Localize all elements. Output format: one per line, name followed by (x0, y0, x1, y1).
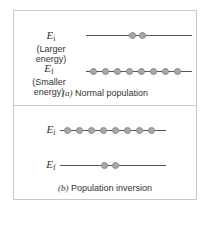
panel-divider (13, 105, 197, 106)
atom (136, 127, 143, 134)
atom (126, 68, 133, 75)
atom (124, 127, 131, 134)
atom (100, 127, 107, 134)
atom (102, 68, 109, 75)
atom (112, 127, 119, 134)
energy-level-ei-a (86, 35, 192, 36)
atom (64, 127, 71, 134)
caption-a: (a) Normal population (13, 88, 197, 98)
energy-level-ef-b (60, 165, 166, 166)
atom (114, 68, 121, 75)
energy-level-ef-a (86, 71, 192, 72)
caption-b: (b) Population inversion (13, 183, 197, 193)
atom (88, 127, 95, 134)
atom (148, 127, 155, 134)
atom (90, 68, 97, 75)
atom (76, 127, 83, 134)
energy-level-ei-b (60, 130, 166, 131)
label-ei-a: Ei (Larger energy) (20, 30, 82, 64)
atom (162, 68, 169, 75)
label-ef-b: Ef (43, 159, 59, 173)
label-ei-b: Ei (43, 124, 59, 138)
atom (138, 68, 145, 75)
atom (112, 162, 119, 169)
atom (101, 162, 108, 169)
atom (150, 68, 157, 75)
atom (129, 32, 136, 39)
atom (174, 68, 181, 75)
atom (139, 32, 146, 39)
